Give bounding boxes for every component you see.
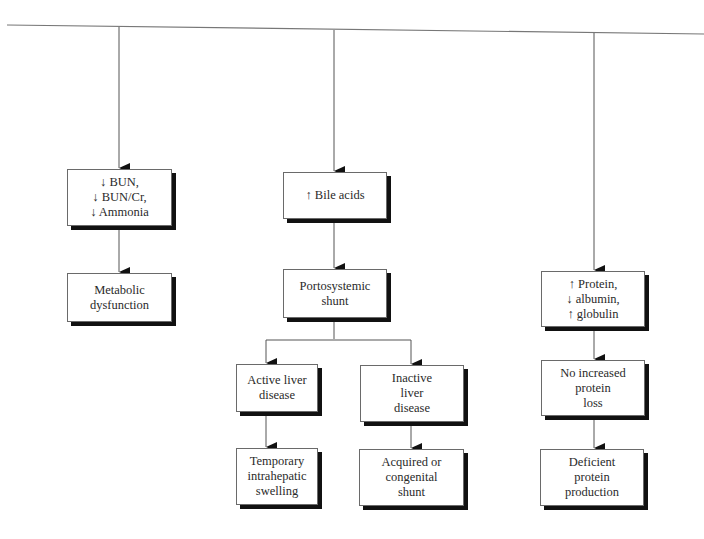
node-bun: ↓ BUN, ↓ BUN/Cr, ↓ Ammonia [67,169,172,226]
top-horizontal-line [7,25,704,34]
node-inactive-liver-label: Inactive liver disease [389,371,435,416]
node-temporary-swelling: Temporary intrahepatic swelling [236,448,318,505]
node-no-protein-loss: No increased protein loss [541,360,645,416]
node-deficient-production: Deficient protein production [540,449,644,506]
node-portosystemic: Portosystemic shunt [283,269,387,318]
node-bile-acids-label: ↑ Bile acids [302,188,367,203]
node-portosystemic-label: Portosystemic shunt [297,279,374,309]
node-no-protein-loss-label: No increased protein loss [557,366,629,411]
node-acquired-shunt: Acquired or congenital shunt [359,449,464,506]
node-metabolic-label: Metabolic dysfunction [87,283,152,313]
node-inactive-liver: Inactive liver disease [360,365,464,422]
node-bun-label: ↓ BUN, ↓ BUN/Cr, ↓ Ammonia [87,175,152,220]
node-active-liver-label: Active liver disease [244,373,309,403]
node-protein: ↑ Protein, ↓ albumin, ↑ globulin [541,271,645,327]
node-deficient-production-label: Deficient protein production [562,455,622,500]
node-temporary-swelling-label: Temporary intrahepatic swelling [245,454,310,499]
node-protein-label: ↑ Protein, ↓ albumin, ↑ globulin [563,277,622,322]
node-acquired-shunt-label: Acquired or congenital shunt [378,455,444,500]
node-bile-acids: ↑ Bile acids [283,172,387,219]
node-active-liver: Active liver disease [236,364,318,412]
node-metabolic: Metabolic dysfunction [67,273,172,322]
